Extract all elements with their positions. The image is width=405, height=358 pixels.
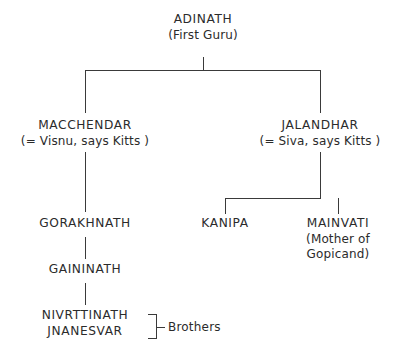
brace-middle-tick: [156, 327, 165, 328]
brothers-brace: [148, 314, 166, 339]
node-nivrttinath-name: NIVRTTINATH: [20, 308, 150, 324]
connector-adinath-bar: [85, 70, 321, 71]
node-macchendar-subtitle: (= Visnu, says Kitts ): [10, 134, 160, 149]
node-mainvati-name: MAINVATI: [283, 216, 393, 232]
genealogy-diagram: ADINATH (First Guru) MACCHENDAR (= Visnu…: [0, 0, 405, 358]
connector-jalandhar-stem: [320, 152, 321, 199]
node-nivrttinath: NIVRTTINATH: [20, 308, 150, 324]
node-jnanesvar-name: JNANESVAR: [20, 324, 150, 340]
node-macchendar-name: MACCHENDAR: [10, 118, 160, 134]
connector-kanipa-drop: [225, 198, 226, 214]
node-mainvati-subtitle-line1: (Mother of: [283, 232, 393, 247]
node-jalandhar-name: JALANDHAR: [248, 118, 392, 134]
node-mainvati: MAINVATI (Mother of Gopicand): [283, 216, 393, 262]
node-mainvati-subtitle-line2: Gopicand): [283, 247, 393, 262]
connector-gaininath-to-brothers: [85, 283, 86, 305]
connector-jalandhar-bar: [225, 198, 320, 199]
node-gaininath-name: GAININATH: [25, 262, 145, 278]
node-adinath: ADINATH (First Guru): [143, 12, 263, 43]
node-jnanesvar: JNANESVAR: [20, 324, 150, 340]
node-adinath-name: ADINATH: [143, 12, 263, 28]
connector-mainvati-drop: [338, 198, 339, 214]
connector-adinath-stem: [203, 57, 204, 71]
node-gaininath: GAININATH: [25, 262, 145, 278]
node-jalandhar: JALANDHAR (= Siva, says Kitts ): [248, 118, 392, 149]
connector-gorakhnath-to-gaininath: [85, 237, 86, 259]
node-jalandhar-subtitle: (= Siva, says Kitts ): [248, 134, 392, 149]
node-mainvati-subtitle: (Mother of Gopicand): [283, 232, 393, 263]
node-adinath-subtitle: (First Guru): [143, 28, 263, 43]
connector-macchendar-to-gorakhnath: [85, 152, 86, 212]
connector-jalandhar-drop: [320, 70, 321, 113]
node-kanipa-name: KANIPA: [185, 216, 265, 232]
brace-bottom-arm: [148, 338, 157, 339]
node-gorakhnath-name: GORAKHNATH: [20, 216, 150, 232]
node-macchendar: MACCHENDAR (= Visnu, says Kitts ): [10, 118, 160, 149]
brothers-label: Brothers: [168, 320, 221, 334]
node-kanipa: KANIPA: [185, 216, 265, 232]
connector-macchendar-drop: [85, 70, 86, 113]
node-gorakhnath: GORAKHNATH: [20, 216, 150, 232]
